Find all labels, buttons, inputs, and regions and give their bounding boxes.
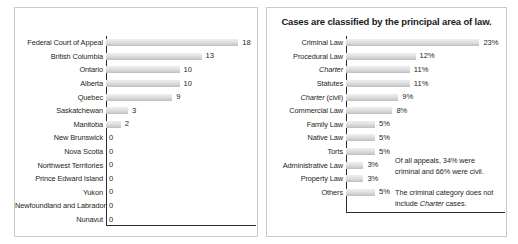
chart-row: Northwest Territories0 [15,158,257,172]
court-category-label: Federal Court of Appeal [15,38,106,47]
chart-row-plot: 12% [346,50,506,64]
area-bar [346,148,375,155]
court-category-label: Prince Edward Island [15,174,106,183]
annotation-2-charter-term: Charter [420,199,444,208]
court-value-label: 0 [106,161,113,169]
chart-row-plot: 23% [346,36,506,50]
court-value-label: 13 [202,52,214,60]
area-bar [346,134,375,141]
chart-row-plot: 5% [346,118,506,132]
chart-row: Statutes11% [267,77,506,91]
court-bar [106,53,202,60]
chart-row-plot: 3 [106,104,257,118]
chart-row: New Brunswick0 [15,131,257,145]
court-category-label: Ontario [15,65,106,74]
area-value-label: 9% [398,93,413,101]
chart-row: Nunavut0 [15,213,257,227]
court-value-label: 9 [172,93,180,101]
chart-row-plot: 9% [346,90,506,104]
court-bar [106,66,180,73]
chart-row-plot: 0 [106,145,257,159]
annotation-2-text-b: cases. [444,199,467,208]
area-value-label: 3% [363,175,378,183]
area-category-label: Torts [267,147,346,156]
chart-row: Yukon0 [15,186,257,200]
area-bar [346,162,363,169]
chart-row: Quebec9 [15,90,257,104]
area-value-label: 8% [392,107,407,115]
chart-row-plot: 0 [106,158,257,172]
court-category-label: Quebec [15,93,106,102]
area-value-label: 5% [375,120,390,128]
court-category-label: Nunavut [15,215,106,224]
chart-row: Native Law5% [267,131,506,145]
chart-row: Procedural Law12% [267,50,506,64]
left-chart-panel: Federal Court of Appeal18British Columbi… [14,7,258,237]
area-bar [346,53,416,60]
chart-row-plot: 0 [106,186,257,200]
area-value-label: 5% [375,148,390,156]
chart-row: Commercial Law8% [267,104,506,118]
chart-row: British Columbia13 [15,50,257,64]
area-value-label: 3% [363,161,378,169]
chart-row: Saskatchewan3 [15,104,257,118]
court-bar [106,80,180,87]
court-bar [106,107,128,114]
court-value-label: 10 [180,66,192,74]
court-category-label: Manitoba [15,120,106,129]
area-value-label: 12% [416,52,435,60]
area-category-label: Commercial Law [267,106,346,115]
area-bar [346,189,375,196]
chart-row-plot: 11% [346,77,506,91]
chart-row: Manitoba2 [15,118,257,132]
area-bar [346,175,363,182]
cases-by-area-of-law-chart: Criminal Law23%Procedural Law12%Charter1… [267,8,506,236]
area-bar [346,94,398,101]
italic-term: Charter [319,65,343,74]
area-category-label: Administrative Law [267,161,346,170]
area-value-label: 5% [375,134,390,142]
chart-row-plot: 0 [106,213,257,227]
court-value-label: 10 [180,80,192,88]
chart-row-plot: 8% [346,104,506,118]
appeals-by-court-chart: Federal Court of Appeal18British Columbi… [15,8,257,236]
area-bar [346,39,479,46]
chart-row: Ontario10 [15,63,257,77]
chart-row-plot: 0 [106,131,257,145]
court-category-label: Nova Scotia [15,147,106,156]
area-category-label: Family Law [267,120,346,129]
chart-annotations: Of all appeals, 34% were criminal and 66… [395,156,499,209]
annotation-line-2: The criminal category does not include C… [395,188,499,209]
area-category-label: Criminal Law [267,38,346,47]
annotation-line-1: Of all appeals, 34% were criminal and 66… [395,156,499,177]
area-bar [346,66,410,73]
chart-row: Federal Court of Appeal18 [15,36,257,50]
chart-row-plot: 13 [106,50,257,64]
court-category-label: Alberta [15,79,106,88]
chart-row-plot: 11% [346,63,506,77]
court-category-label: Newfoundland and Labrador [15,201,106,210]
area-bar [346,121,375,128]
court-category-label: New Brunswick [15,133,106,142]
chart-row-plot: 18 [106,36,257,50]
chart-row: Criminal Law23% [267,36,506,50]
court-value-label: 0 [106,202,113,210]
court-value-label: 0 [106,175,113,183]
chart-row-plot: 0 [106,172,257,186]
area-category-label: Procedural Law [267,52,346,61]
court-value-label: 18 [238,39,250,47]
area-value-label: 11% [410,66,429,74]
italic-term: Charter [301,93,325,102]
chart-row: Family Law5% [267,118,506,132]
right-chart-x-axis [346,212,505,213]
court-bar [106,121,121,128]
area-bar [346,107,392,114]
chart-row: Alberta10 [15,77,257,91]
chart-row-plot: 0 [106,199,257,213]
area-category-label: Charter (civil) [267,93,346,102]
court-value-label: 0 [106,148,113,156]
area-category-label: Charter [267,65,346,74]
chart-row-plot: 5% [346,131,506,145]
area-value-label: 5% [375,188,390,196]
court-bar [106,39,238,46]
